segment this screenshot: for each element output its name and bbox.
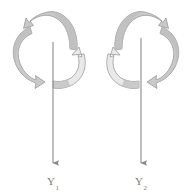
diagram-canvas <box>0 0 196 195</box>
figure-root: Y1 Y2 <box>0 0 196 195</box>
